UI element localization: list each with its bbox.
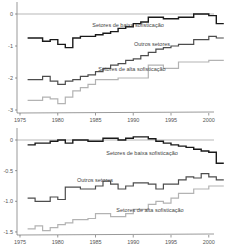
top-chart: 0-1-2-3197519801985199019952000Setores d… xyxy=(8,2,224,123)
x-tick-label: 1985 xyxy=(89,117,101,123)
outros-series xyxy=(28,36,224,84)
y-tick-label: 0 xyxy=(10,137,13,143)
series-annotation: Outros setores xyxy=(134,41,170,47)
baixa-series xyxy=(28,14,224,48)
y-tick-label: -1.0 xyxy=(4,198,13,204)
series-annotation: Setores de baixa sofisticação xyxy=(106,150,178,156)
x-axis xyxy=(17,112,214,113)
x-tick-label: 1995 xyxy=(165,239,177,245)
series-annotation: Setores de alta sofisticação xyxy=(98,66,165,72)
x-tick-label: 1975 xyxy=(14,117,26,123)
outros-series xyxy=(28,174,224,202)
x-tick-label: 1990 xyxy=(127,239,139,245)
chart-canvas: 0-1-2-3197519801985199019952000Setores d… xyxy=(0,0,226,252)
y-tick-label: -1.5 xyxy=(4,229,13,235)
x-tick-label: 2000 xyxy=(203,117,215,123)
y-tick-label: -3 xyxy=(8,107,13,113)
x-tick-label: 1985 xyxy=(89,239,101,245)
series-annotation: Setores de alta sofisticação xyxy=(116,207,183,213)
series-annotation: Setores de baixa sofisticação xyxy=(92,22,164,28)
y-tick-label: 0 xyxy=(10,11,13,17)
y-tick-label: -1 xyxy=(8,43,13,49)
x-axis xyxy=(17,234,214,235)
x-tick-label: 1990 xyxy=(127,117,139,123)
x-tick-label: 1995 xyxy=(165,117,177,123)
x-tick-label: 1975 xyxy=(14,239,26,245)
series-annotation: Outros setores xyxy=(77,177,113,183)
x-tick-label: 1980 xyxy=(52,117,64,123)
x-tick-label: 1980 xyxy=(52,239,64,245)
x-tick-label: 2000 xyxy=(203,239,215,245)
y-tick-label: -2 xyxy=(8,75,13,81)
y-tick-label: -0.5 xyxy=(4,168,13,174)
bottom-chart: 0-0.5-1.0-1.5197519801985199019952000Set… xyxy=(4,128,224,245)
